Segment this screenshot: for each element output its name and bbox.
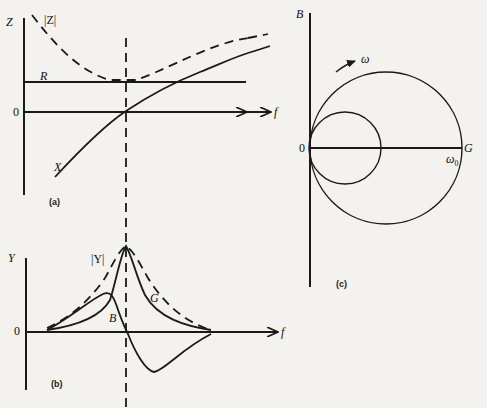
panel-c-origin-label: 0 [299, 141, 305, 155]
panel-b-x-axis-label: f [281, 325, 286, 339]
panel-c-caption: (c) [336, 279, 347, 289]
panel-a-magnitude-label: |Z| [44, 13, 56, 27]
panel-c-direction-arrow [336, 61, 355, 72]
panel-a-impedance-magnitude-curve [32, 15, 248, 80]
panel-c-resonance-omega: ω [446, 152, 454, 166]
panel-b-magnitude-label: |Y| [91, 252, 104, 266]
panel-b-caption: (b) [51, 379, 63, 389]
panel-a-impedance-curve-ext [248, 34, 268, 38]
panel-b-admittance-magnitude-curve [47, 246, 211, 330]
panel-b: Y |Y| G B 0 f (b) [8, 246, 286, 390]
figure-canvas: Z |Z| R 0 X f (a) Y |Y| G B 0 f (b) B ω … [0, 0, 487, 408]
panel-c-resonance-label: ω0 [446, 152, 458, 168]
panel-c-y-axis-label: B [296, 7, 304, 21]
panel-b-y-axis-label: Y [8, 251, 16, 265]
panel-b-conductance-curve [47, 246, 211, 330]
panel-a-y-axis-label: Z [6, 15, 13, 29]
panel-c-x-axis-label: G [464, 141, 473, 155]
panel-c-resonance-subscript: 0 [454, 159, 458, 168]
panel-a-origin-label: 0 [13, 105, 19, 119]
panel-c-frequency-label: ω [361, 52, 369, 66]
figure-svg: Z |Z| R 0 X f (a) Y |Y| G B 0 f (b) B ω … [0, 0, 487, 408]
panel-b-conductance-label: G [150, 291, 159, 305]
panel-c: B ω 0 G ω0 (c) [296, 7, 473, 289]
panel-a-caption: (a) [49, 197, 60, 207]
panel-a-reactance-label: X [53, 160, 62, 174]
panel-a-reactance-curve [55, 53, 248, 177]
panel-a-resistance-label: R [39, 69, 48, 83]
panel-a-reactance-curve-ext [248, 46, 270, 53]
panel-a-x-axis-label: f [274, 105, 279, 119]
panel-b-origin-label: 0 [14, 324, 20, 338]
panel-a: Z |Z| R 0 X f (a) [6, 13, 279, 207]
panel-b-susceptance-label: B [109, 311, 117, 325]
